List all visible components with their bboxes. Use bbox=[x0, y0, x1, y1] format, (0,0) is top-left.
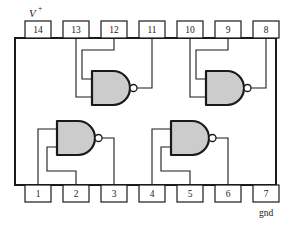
pin-row-bottom: 1 2 3 4 5 6 7 bbox=[25, 185, 279, 202]
pin-3[interactable]: 3 bbox=[101, 185, 127, 202]
pin-9[interactable]: 9 bbox=[215, 21, 241, 38]
pin-5-label: 5 bbox=[188, 189, 193, 199]
pin-2[interactable]: 2 bbox=[63, 185, 89, 202]
inversion-bubble-icon bbox=[244, 85, 251, 92]
pin-4-label: 4 bbox=[150, 189, 155, 199]
nand-body-shape bbox=[57, 121, 95, 155]
pin-8-label: 8 bbox=[264, 25, 269, 35]
ic-package-body bbox=[15, 38, 276, 185]
pin-3-label: 3 bbox=[112, 189, 117, 199]
pin-6-label: 6 bbox=[226, 189, 231, 199]
inversion-bubble-icon bbox=[95, 135, 102, 142]
nand-body-shape bbox=[206, 71, 244, 105]
pin-12-label: 12 bbox=[109, 25, 119, 35]
pin-5[interactable]: 5 bbox=[177, 185, 203, 202]
diagram-canvas: 14 13 12 11 10 9 bbox=[0, 0, 291, 233]
pin-11[interactable]: 11 bbox=[139, 21, 165, 38]
pin-13[interactable]: 13 bbox=[63, 21, 89, 38]
pin-11-label: 11 bbox=[147, 25, 156, 35]
pin-4[interactable]: 4 bbox=[139, 185, 165, 202]
pin-14[interactable]: 14 bbox=[25, 21, 51, 38]
pin-10[interactable]: 10 bbox=[177, 21, 203, 38]
pin-2-label: 2 bbox=[74, 189, 79, 199]
pin-9-label: 9 bbox=[226, 25, 231, 35]
inversion-bubble-icon bbox=[209, 135, 216, 142]
inversion-bubble-icon bbox=[130, 85, 137, 92]
pin-8[interactable]: 8 bbox=[253, 21, 279, 38]
pin-14-label: 14 bbox=[33, 25, 43, 35]
pin-10-label: 10 bbox=[185, 25, 195, 35]
pin-12[interactable]: 12 bbox=[101, 21, 127, 38]
pin-row-top: 14 13 12 11 10 9 bbox=[25, 21, 279, 38]
pin-6[interactable]: 6 bbox=[215, 185, 241, 202]
pin-7-label: 7 bbox=[264, 189, 269, 199]
nand-body-shape bbox=[92, 71, 130, 105]
pin-1[interactable]: 1 bbox=[25, 185, 51, 202]
gnd-label: gnd bbox=[259, 208, 274, 218]
vplus-label: V bbox=[29, 7, 37, 19]
pin-13-label: 13 bbox=[71, 25, 81, 35]
pin-1-label: 1 bbox=[36, 189, 41, 199]
vplus-superscript: + bbox=[38, 4, 42, 13]
ic-pinout-figure: 14 13 12 11 10 9 bbox=[0, 0, 291, 233]
nand-body-shape bbox=[171, 121, 209, 155]
pin-7[interactable]: 7 bbox=[253, 185, 279, 202]
